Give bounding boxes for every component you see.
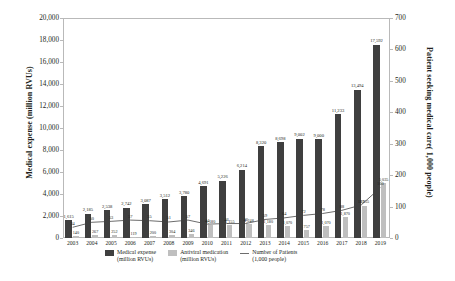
- line-point-label: 59: [257, 213, 273, 218]
- y-axis-left-tick-mark: [60, 40, 63, 41]
- legend-label-line1: Medical expense: [117, 249, 156, 256]
- y-axis-left-tick-label: 16,000: [39, 58, 59, 66]
- bar-label-medical-expense: 9,000: [308, 133, 330, 138]
- line-point-label: 51: [161, 215, 177, 220]
- y-axis-left-tick-label: 6,000: [43, 168, 59, 176]
- line-point-label: 160: [372, 181, 388, 186]
- bar-label-antiviral-medication: 757: [297, 224, 317, 229]
- bar-antiviral-medication: [227, 225, 232, 238]
- y-axis-right-tick-label: 400: [395, 108, 406, 116]
- legend-label: Medical expense(million RVUs): [117, 249, 156, 263]
- line-point-label: 57: [180, 214, 196, 219]
- legend-item[interactable]: Medical expense(million RVUs): [105, 249, 156, 263]
- y-axis-right-tick-label: 200: [395, 171, 406, 179]
- bar-label-medical-expense: 3,780: [173, 190, 195, 195]
- bar-label-medical-expense: 17,592: [365, 38, 387, 43]
- y-axis-left-tick-label: 12,000: [39, 102, 59, 110]
- legend-item[interactable]: Number of Patients(1,000 people): [240, 249, 297, 263]
- bar-antiviral-medication: [381, 183, 386, 238]
- bar-antiviral-medication: [73, 236, 78, 238]
- bar-label-antiviral-medication: 140: [66, 230, 86, 235]
- bar-label-antiviral-medication: 267: [85, 229, 105, 234]
- bar-label-antiviral-medication: 252: [104, 229, 124, 234]
- y-axis-right-tick-mark: [390, 18, 393, 19]
- y-axis-title-left: Medical expense (million RVUs): [25, 38, 34, 208]
- line-point-label: 72: [295, 209, 311, 214]
- line-point-label: 55: [142, 214, 158, 219]
- bar-antiviral-medication: [131, 237, 136, 238]
- y-axis-left-tick-mark: [60, 128, 63, 129]
- y-axis-left-tick-label: 10,000: [39, 124, 59, 132]
- bar-label-antiviral-medication: 1,070: [278, 220, 298, 225]
- y-axis-right-tick-mark: [390, 238, 393, 239]
- bar-medical-expense: [354, 90, 361, 238]
- line-point-label: 53: [103, 215, 119, 220]
- bar-medical-expense: [219, 181, 226, 238]
- bar-label-medical-expense: 6,214: [231, 163, 253, 168]
- bar-antiviral-medication: [246, 224, 251, 238]
- line-point-label: 105: [353, 199, 369, 204]
- bar-antiviral-medication: [189, 234, 194, 238]
- y-axis-left-tick-mark: [60, 216, 63, 217]
- line-point-label: 64: [276, 211, 292, 216]
- chart-container: Medical expense (million RVUs) Patient s…: [0, 0, 455, 281]
- bar-antiviral-medication: [150, 236, 155, 238]
- y-axis-right-tick-label: 700: [395, 14, 406, 22]
- bar-label-antiviral-medication: 119: [124, 231, 144, 236]
- bar-antiviral-medication: [304, 230, 309, 238]
- bar-antiviral-medication: [208, 225, 213, 238]
- bar-medical-expense: [200, 186, 207, 238]
- y-axis-right-tick-label: 100: [395, 203, 406, 211]
- y-axis-right-tick-mark: [390, 207, 393, 208]
- y-axis-right-tick-label: 600: [395, 45, 406, 53]
- y-axis-left-tick-label: 4,000: [43, 190, 59, 198]
- bar-label-medical-expense: 3,087: [135, 198, 157, 203]
- y-axis-left-tick-label: 2,000: [43, 212, 59, 220]
- bar-medical-expense: [239, 170, 246, 238]
- y-axis-right-tick-label: 0: [395, 234, 399, 242]
- y-axis-right-tick-mark: [390, 144, 393, 145]
- line-point-label: 88: [334, 204, 350, 209]
- x-axis-tick-label: 2019: [366, 240, 394, 247]
- y-axis-left-tick-label: 18,000: [39, 36, 59, 44]
- line-point-label: 44: [199, 218, 215, 223]
- legend-swatch-line-icon: [240, 250, 249, 256]
- bar-label-medical-expense: 4,691: [192, 180, 214, 185]
- legend-label-line2: (million RVUs): [180, 256, 228, 263]
- legend-label-line2: (1,000 people): [252, 256, 297, 263]
- y-axis-left-tick-mark: [60, 238, 63, 239]
- y-axis-left-tick-label: 8,000: [43, 146, 59, 154]
- y-axis-right-tick-label: 500: [395, 77, 406, 85]
- legend-swatch-expense-icon: [105, 250, 114, 256]
- legend-swatch-antiviral-icon: [168, 250, 177, 256]
- y-axis-left-tick-mark: [60, 62, 63, 63]
- bar-antiviral-medication: [323, 226, 328, 238]
- y-axis-left-tick-mark: [60, 150, 63, 151]
- bar-antiviral-medication: [285, 226, 290, 238]
- bar-label-antiviral-medication: 1,180: [258, 219, 278, 224]
- y-axis-left-tick-label: 20,000: [39, 14, 59, 22]
- y-axis-right-tick-label: 300: [395, 140, 406, 148]
- legend-label-line2: (million RVUs): [117, 256, 156, 263]
- line-point-label: 46: [238, 217, 254, 222]
- line-point-label: 34: [65, 221, 81, 226]
- bar-medical-expense: [258, 146, 265, 238]
- y-axis-left-tick-mark: [60, 106, 63, 107]
- bar-antiviral-medication: [169, 235, 174, 238]
- legend-item[interactable]: Antiviral medication(million RVUs): [168, 249, 228, 263]
- y-axis-left-tick-mark: [60, 18, 63, 19]
- bar-antiviral-medication: [266, 225, 271, 238]
- y-axis-right-tick-mark: [390, 112, 393, 113]
- y-axis-left-tick-mark: [60, 84, 63, 85]
- bar-label-medical-expense: 5,226: [212, 174, 234, 179]
- bar-label-antiviral-medication: 346: [181, 228, 201, 233]
- y-axis-title-right: Patient seeking medical care( 1,000 peop…: [425, 38, 434, 208]
- bar-label-antiviral-medication: 1,070: [316, 220, 336, 225]
- bar-antiviral-medication: [362, 206, 367, 239]
- bar-medical-expense: [373, 45, 380, 239]
- bar-label-antiviral-medication: 200: [143, 230, 163, 235]
- bar-medical-expense: [335, 114, 342, 238]
- line-point-label: 57: [122, 214, 138, 219]
- chart-legend: Medical expense(million RVUs)Antiviral m…: [105, 249, 395, 275]
- line-point-label: 46: [219, 217, 235, 222]
